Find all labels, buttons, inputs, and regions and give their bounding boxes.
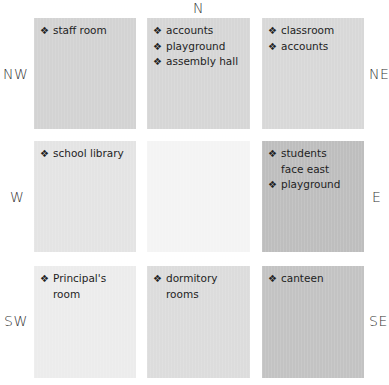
compass-label-southeast: SE — [369, 314, 388, 328]
diamond-bullet-icon: ❖ — [153, 39, 162, 55]
zone-items: ❖classroom ❖accounts — [268, 23, 360, 54]
diamond-bullet-icon: ❖ — [40, 23, 49, 39]
diamond-bullet-icon: ❖ — [40, 271, 49, 287]
zone-southwest: ❖Principal's room — [34, 266, 136, 378]
diamond-bullet-icon: ❖ — [153, 23, 162, 39]
compass-label-west: W — [10, 190, 24, 204]
zone-item: ❖staff room — [40, 23, 132, 39]
compass-label-northeast: NE — [369, 67, 389, 81]
zone-item-label: assembly hall — [166, 55, 238, 67]
zone-item: ❖accounts — [268, 39, 360, 55]
compass-label-northwest: NW — [3, 67, 28, 81]
diamond-bullet-icon: ❖ — [268, 271, 277, 287]
zone-item-label: school library — [53, 147, 124, 159]
diamond-bullet-icon: ❖ — [40, 146, 49, 162]
zone-item-label: playground — [166, 40, 225, 52]
zone-item-label: classroom — [281, 24, 334, 36]
zone-items: ❖dormitory rooms — [153, 271, 246, 302]
zone-items: ❖staff room — [40, 23, 132, 39]
zone-item: ❖assembly hall — [153, 54, 246, 70]
zone-items: ❖students face east ❖playground — [268, 146, 360, 193]
diamond-bullet-icon: ❖ — [268, 23, 277, 39]
zone-item: ❖canteen — [268, 271, 360, 287]
zone-item-label: canteen — [281, 272, 324, 284]
zone-item-label: students face east — [281, 147, 329, 175]
zone-southeast: ❖canteen — [262, 266, 364, 378]
diamond-bullet-icon: ❖ — [268, 146, 277, 162]
zone-item: ❖playground — [268, 177, 360, 193]
zone-item: ❖Principal's room — [40, 271, 132, 302]
zone-center — [147, 141, 250, 252]
zone-item: ❖dormitory rooms — [153, 271, 246, 302]
zone-item-label: playground — [281, 178, 340, 190]
zone-east: ❖students face east ❖playground — [262, 141, 364, 252]
zone-south: ❖dormitory rooms — [147, 266, 250, 378]
diamond-bullet-icon: ❖ — [268, 177, 277, 193]
compass-label-southwest: SW — [4, 314, 28, 328]
zone-item: ❖classroom — [268, 23, 360, 39]
zone-item: ❖students face east — [268, 146, 360, 177]
compass-label-north: N — [193, 1, 204, 15]
zone-items: ❖canteen — [268, 271, 360, 287]
zone-northwest: ❖staff room — [34, 18, 136, 129]
zone-north: ❖accounts ❖playground ❖assembly hall — [147, 18, 250, 129]
zone-item-label: accounts — [166, 24, 213, 36]
zone-item: ❖playground — [153, 39, 246, 55]
zone-item: ❖accounts — [153, 23, 246, 39]
compass-label-east: E — [372, 190, 381, 204]
diamond-bullet-icon: ❖ — [268, 39, 277, 55]
zone-northeast: ❖classroom ❖accounts — [262, 18, 364, 129]
zone-items: ❖Principal's room — [40, 271, 132, 302]
zone-item: ❖school library — [40, 146, 132, 162]
zone-items: ❖accounts ❖playground ❖assembly hall — [153, 23, 246, 70]
zone-item-label: Principal's room — [53, 272, 106, 300]
zone-item-label: accounts — [281, 40, 328, 52]
zone-items: ❖school library — [40, 146, 132, 162]
diamond-bullet-icon: ❖ — [153, 54, 162, 70]
zone-west: ❖school library — [34, 141, 136, 252]
zone-item-label: staff room — [53, 24, 107, 36]
diamond-bullet-icon: ❖ — [153, 271, 162, 287]
zone-item-label: dormitory rooms — [166, 272, 217, 300]
